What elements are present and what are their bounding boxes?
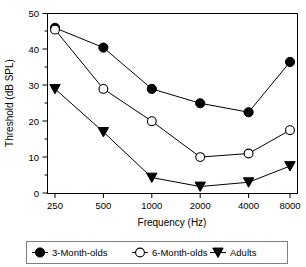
legend-marker-filled-circle bbox=[35, 248, 44, 257]
x-axis-title: Frequency (Hz) bbox=[138, 217, 207, 228]
x-tick-label: 4000 bbox=[238, 200, 259, 211]
threshold-vs-frequency-chart: 0 10 20 30 40 50 250 500 1000 2000 4000 … bbox=[0, 0, 306, 267]
data-point bbox=[99, 84, 108, 93]
series-3-month-olds bbox=[50, 23, 294, 117]
x-axis-tick-labels: 250 500 1000 2000 4000 8000 bbox=[47, 200, 301, 211]
data-point bbox=[147, 117, 156, 126]
data-point bbox=[195, 182, 205, 191]
y-tick-label: 30 bbox=[28, 80, 39, 91]
legend: 3-Month-olds6-Month-oldsAdults bbox=[27, 242, 288, 264]
x-tick-label: 8000 bbox=[279, 200, 300, 211]
y-tick-label: 50 bbox=[28, 8, 39, 19]
data-point bbox=[285, 57, 294, 66]
data-point bbox=[244, 149, 253, 158]
data-point bbox=[244, 108, 253, 117]
data-point bbox=[285, 162, 295, 171]
legend-label: 3-Month-olds bbox=[52, 247, 108, 258]
y-tick-label: 40 bbox=[28, 44, 39, 55]
data-series-layer bbox=[50, 23, 295, 191]
legend-label: Adults bbox=[230, 247, 257, 258]
legend-label: 6-Month-olds bbox=[152, 247, 208, 258]
series-line bbox=[55, 89, 290, 187]
series-line bbox=[55, 30, 290, 157]
data-point bbox=[196, 153, 205, 162]
x-tick-label: 2000 bbox=[190, 200, 211, 211]
y-axis-ticks bbox=[43, 14, 48, 194]
data-point bbox=[99, 43, 108, 52]
data-point bbox=[147, 84, 156, 93]
data-point bbox=[51, 25, 60, 34]
figure-container: 0 10 20 30 40 50 250 500 1000 2000 4000 … bbox=[0, 0, 306, 267]
y-tick-label: 0 bbox=[34, 188, 39, 199]
y-tick-label: 20 bbox=[28, 116, 39, 127]
y-axis-tick-labels: 0 10 20 30 40 50 bbox=[28, 8, 39, 199]
x-tick-label: 1000 bbox=[141, 200, 162, 211]
legend-item: Adults bbox=[210, 247, 257, 258]
series-6-month-olds bbox=[51, 25, 295, 161]
series-line bbox=[55, 28, 290, 112]
x-tick-label: 250 bbox=[47, 200, 63, 211]
data-point bbox=[286, 126, 295, 135]
x-tick-label: 500 bbox=[95, 200, 111, 211]
legend-marker-open-circle bbox=[136, 248, 145, 257]
y-tick-label: 10 bbox=[28, 152, 39, 163]
data-point bbox=[196, 99, 205, 108]
y-axis-title: Threshold (dB SPL) bbox=[4, 59, 15, 147]
